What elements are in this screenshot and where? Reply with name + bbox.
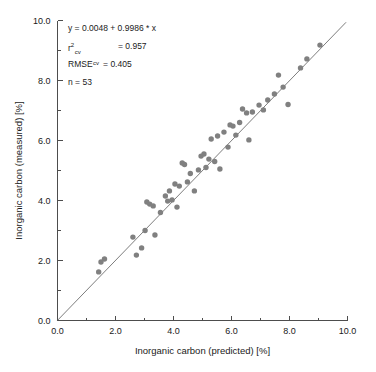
x-axis-tick-label: 0.0 [51,326,64,336]
x-axis-tick-label: 2.0 [109,326,122,336]
y-axis-title: Inorganic carbon (measured) [%] [13,101,24,239]
rmse-label: RMSE [68,60,93,69]
data-point [192,188,197,193]
r2-value: = 0.957 [118,42,147,51]
data-point [285,102,290,107]
data-point [217,166,222,171]
rmse-subscript: cv [93,60,99,66]
data-point [152,232,157,237]
data-point [265,97,270,102]
data-point [233,132,238,137]
y-axis-tick-label: 2.0 [38,256,51,266]
data-point [167,188,172,193]
data-point [256,102,261,107]
r2-subscript: cv [75,49,81,55]
rmse-value: = 0.405 [103,60,132,69]
data-point [225,144,230,149]
data-point [298,65,303,70]
data-point [102,256,107,261]
data-point [221,129,226,134]
y-axis-tick-label: 6.0 [38,136,51,146]
y-axis-tick-label: 8.0 [38,76,51,86]
data-point [182,162,187,167]
r2-label: r2cv [68,42,114,55]
scatter-plot-figure: 0.02.04.06.08.010.00.02.04.06.08.010.0In… [0,0,376,372]
data-point [250,109,255,114]
data-point [276,72,281,77]
annotation-rmse-row: RMSEcv= 0.405 [68,60,156,78]
data-point [206,156,211,161]
data-point [185,179,190,184]
sample-count-text: n = 53 [68,78,92,87]
x-axis-tick-label: 10.0 [339,326,357,336]
data-point [96,269,101,274]
data-point [163,193,168,198]
data-point [280,84,285,89]
data-point [130,234,135,239]
data-point [244,110,249,115]
data-point [169,197,174,202]
data-point [304,56,309,61]
statistics-annotation-block: y = 0.0048 + 0.9986 * x r2cv= 0.957 RMSE… [68,24,156,96]
data-point [177,183,182,188]
plot-canvas: 0.02.04.06.08.010.00.02.04.06.08.010.0In… [0,0,376,372]
data-point [201,151,206,156]
data-point [240,106,245,111]
y-axis-tick-label: 4.0 [38,196,51,206]
data-point [209,136,214,141]
data-point [139,245,144,250]
data-point [212,159,217,164]
data-point [272,91,277,96]
y-axis-tick-label: 0.0 [38,316,51,326]
data-point [230,123,235,128]
data-point [188,171,193,176]
data-point [151,203,156,208]
data-point [158,210,163,215]
data-point [174,204,179,209]
data-point [203,165,208,170]
data-point [134,252,139,257]
regression-equation-text: y = 0.0048 + 0.9986 * x [68,24,156,33]
x-axis-tick-label: 6.0 [225,326,238,336]
data-point [317,42,322,47]
y-axis-tick-label: 10.0 [33,16,51,26]
data-point [246,137,251,142]
x-axis-tick-label: 4.0 [167,326,180,336]
x-axis-tick-label: 8.0 [283,326,296,336]
data-point [237,120,242,125]
data-point [142,228,147,233]
annotation-r2-row: r2cv= 0.957 [68,42,156,60]
r2-superscript: 2 [71,42,74,48]
data-point [215,133,220,138]
annotation-n-row: n = 53 [68,78,156,96]
data-point [261,107,266,112]
x-axis-title: Inorganic carbon (predicted) [%] [135,345,270,356]
data-point [196,167,201,172]
annotation-equation-row: y = 0.0048 + 0.9986 * x [68,24,156,42]
